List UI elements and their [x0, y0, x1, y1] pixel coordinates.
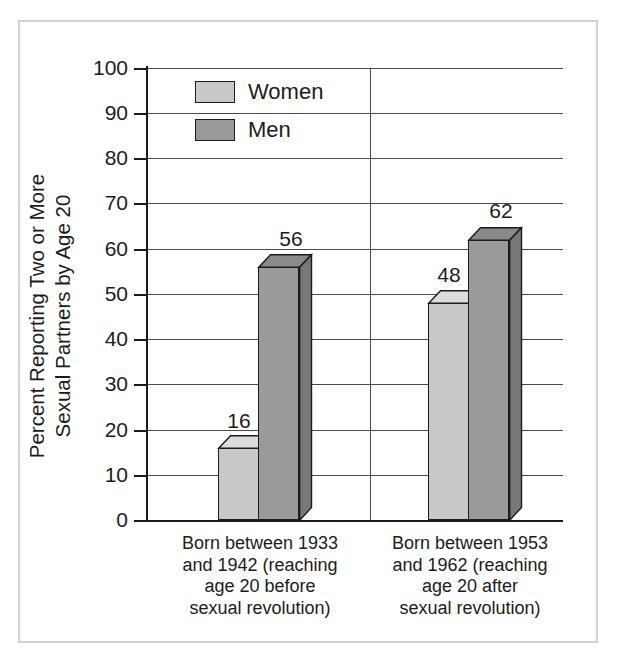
- y-tick-label-text: 50: [105, 283, 128, 304]
- y-tick-label-text: 80: [105, 147, 128, 168]
- bar-front-face: [428, 303, 469, 520]
- y-tick-20: [134, 430, 147, 432]
- y-tick-10: [134, 475, 147, 477]
- x-category-label-0-line-2: and 1942 (reaching: [155, 555, 365, 577]
- bar-value-label-group-1-men: 62: [475, 200, 527, 221]
- y-tick-80: [134, 158, 147, 160]
- y-tick-label-text: 70: [105, 192, 128, 213]
- chart-figure: 100 90 80 70 60 50 40 30 20 10 0 Percent…: [0, 0, 618, 665]
- y-tick-50: [134, 294, 147, 296]
- y-tick-label-text: 30: [105, 373, 128, 394]
- legend-label-men: Men: [248, 119, 291, 141]
- y-axis-title-line-2: Sexual Partners by Age 20: [50, 81, 76, 551]
- x-category-label-1: Born between 1953 and 1962 (reaching age…: [365, 533, 575, 619]
- x-category-label-0-line-1: Born between 1933: [155, 533, 365, 555]
- legend-item-men[interactable]: Men: [195, 114, 323, 146]
- category-separator: [370, 68, 371, 520]
- y-tick-0: [134, 520, 147, 522]
- legend: Women Men: [195, 76, 323, 152]
- y-tick-label-text: 0: [116, 509, 128, 530]
- y-tick-60: [134, 249, 147, 251]
- x-category-label-1-line-2: and 1962 (reaching: [365, 555, 575, 577]
- y-tick-40: [134, 339, 147, 341]
- legend-swatch-women-icon: [195, 81, 235, 103]
- x-category-label-1-line-3: age 20 after: [365, 576, 575, 598]
- plot-area: 100 90 80 70 60 50 40 30 20 10 0 Percent…: [0, 0, 618, 665]
- x-category-label-1-line-4: sexual revolution): [365, 598, 575, 620]
- x-category-label-1-line-1: Born between 1953: [365, 533, 575, 555]
- y-axis-title-line-1: Percent Reporting Two or More: [24, 81, 50, 551]
- bar-front-face: [218, 448, 259, 520]
- legend-item-women[interactable]: Women: [195, 76, 323, 108]
- bar-front-face: [468, 240, 509, 520]
- legend-label-women: Women: [248, 81, 323, 103]
- y-tick-30: [134, 384, 147, 386]
- gridline-100: [148, 68, 563, 69]
- y-tick-label-text: 40: [105, 328, 128, 349]
- bar-value-label-group-0-men: 56: [265, 228, 317, 249]
- y-tick-label-text: 10: [105, 464, 128, 485]
- y-tick-label-text: 20: [105, 419, 128, 440]
- x-category-label-0-line-3: age 20 before: [155, 576, 365, 598]
- y-axis-title: Percent Reporting Two or More Sexual Par…: [24, 81, 76, 551]
- bar-group-1-men[interactable]: [468, 227, 520, 520]
- y-tick-90: [134, 113, 147, 115]
- bar-group-0-men[interactable]: [258, 254, 310, 520]
- y-tick-label-text: 90: [105, 102, 128, 123]
- y-tick-label-text: 60: [105, 238, 128, 259]
- axis-baseline: [148, 520, 563, 522]
- legend-swatch-men-icon: [195, 119, 235, 141]
- x-category-label-0-line-4: sexual revolution): [155, 598, 365, 620]
- gridline-80: [148, 158, 563, 159]
- y-tick-70: [134, 203, 147, 205]
- y-tick-100: [134, 68, 147, 70]
- y-tick-label-text: 100: [93, 57, 128, 78]
- x-category-label-0: Born between 1933 and 1942 (reaching age…: [155, 533, 365, 619]
- bar-front-face: [258, 267, 299, 520]
